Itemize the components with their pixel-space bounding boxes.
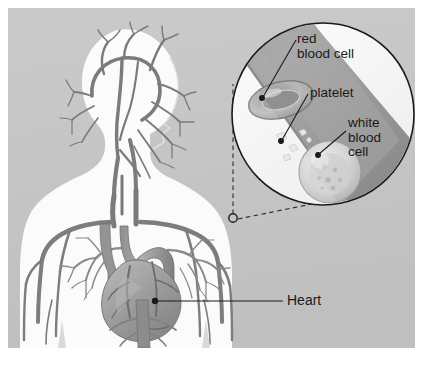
anatomy-illustration [0,0,425,365]
label-red-blood-cell: red blood cell [297,32,354,61]
white-blood-cell-point [316,153,321,158]
red-blood-cell-point [260,96,265,101]
heart-point [152,298,157,303]
label-heart: Heart [287,293,321,308]
label-platelet: platelet [310,86,354,101]
descending-aorta [136,300,150,348]
platelet-point [279,139,284,144]
label-white-blood-cell: white blood cell [348,116,381,160]
figure-root: red blood cell platelet white blood cell… [0,0,425,365]
